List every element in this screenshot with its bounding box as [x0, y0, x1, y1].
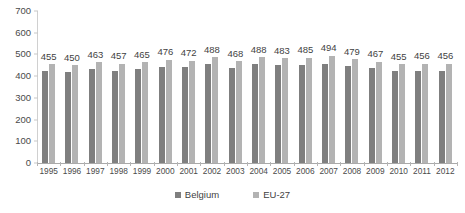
x-axis-category-label: 2005 — [273, 166, 291, 177]
x-axis-tick-mark — [457, 162, 458, 166]
bar-pair — [107, 11, 130, 163]
bar-pair — [200, 11, 223, 163]
plot-area: 0100200300400500600700455450463457465476… — [37, 11, 457, 163]
bar-pair — [364, 11, 387, 163]
bar-value-label: 468 — [227, 49, 243, 59]
x-axis-category-label: 1998 — [109, 166, 127, 177]
bar-pair — [37, 11, 60, 163]
bar-group: 456 — [434, 11, 457, 163]
x-axis-category-label: 2008 — [343, 166, 361, 177]
bar-belgium — [345, 66, 351, 163]
x-axis-category-label: 1995 — [39, 166, 57, 177]
bar-value-label: 488 — [251, 45, 267, 55]
bar-pair — [60, 11, 83, 163]
bar-eu27 — [282, 58, 288, 163]
bar-group: 465 — [130, 11, 153, 163]
legend-label: Belgium — [185, 190, 219, 200]
bar-pair — [84, 11, 107, 163]
x-axis-category-label: 2009 — [366, 166, 384, 177]
x-axis-category-label: 2010 — [389, 166, 407, 177]
bar-group: 457 — [107, 11, 130, 163]
bar-belgium — [229, 68, 235, 163]
bar-pair — [154, 11, 177, 163]
bar-value-label: 483 — [274, 46, 290, 56]
chart-legend: BelgiumEU-27 — [0, 190, 465, 200]
bar-pair — [410, 11, 433, 163]
bar-eu27 — [376, 62, 382, 163]
bar-value-label: 472 — [181, 48, 197, 58]
legend-swatch-icon — [175, 192, 181, 198]
bar-group: 483 — [270, 11, 293, 163]
bar-value-label: 457 — [111, 51, 127, 61]
bar-eu27 — [119, 64, 125, 163]
bar-group: 485 — [294, 11, 317, 163]
bar-pair — [177, 11, 200, 163]
bar-value-label: 456 — [414, 51, 430, 61]
x-axis-category-label: 2000 — [156, 166, 174, 177]
bar-pair — [130, 11, 153, 163]
bar-belgium — [65, 72, 71, 163]
bar-eu27 — [306, 58, 312, 163]
legend-item[interactable]: EU-27 — [253, 190, 290, 200]
bar-group: 467 — [364, 11, 387, 163]
x-axis-category-label: 1997 — [86, 166, 104, 177]
bar-pair — [270, 11, 293, 163]
bar-eu27 — [72, 65, 78, 163]
x-axis-category-label: 2011 — [413, 166, 431, 177]
bar-group: 494 — [317, 11, 340, 163]
bar-eu27 — [142, 62, 148, 163]
bar-value-label: 455 — [41, 52, 57, 62]
bar-value-label: 479 — [344, 47, 360, 57]
bar-group: 456 — [410, 11, 433, 163]
bar-pair — [434, 11, 457, 163]
bar-belgium — [369, 68, 375, 163]
x-axis-category-label: 1996 — [63, 166, 81, 177]
bar-eu27 — [189, 61, 195, 163]
legend-item[interactable]: Belgium — [175, 190, 219, 200]
x-axis-labels: 1995199619971998199920002001200220032004… — [37, 166, 457, 182]
bar-belgium — [112, 71, 118, 163]
bar-belgium — [275, 65, 281, 163]
x-axis-category-label: 2001 — [179, 166, 197, 177]
bar-chart: 0100200300400500600700455450463457465476… — [0, 0, 465, 213]
bar-belgium — [415, 71, 421, 163]
x-axis-category-label: 2012 — [436, 166, 454, 177]
x-axis-category-label: 2007 — [319, 166, 337, 177]
bar-group: 476 — [154, 11, 177, 163]
bar-value-label: 476 — [157, 47, 173, 57]
bar-eu27 — [399, 64, 405, 163]
bar-group: 468 — [224, 11, 247, 163]
bar-value-label: 456 — [437, 51, 453, 61]
legend-swatch-icon — [253, 192, 259, 198]
bar-value-label: 494 — [321, 43, 337, 53]
bar-eu27 — [352, 59, 358, 163]
bar-value-label: 450 — [64, 53, 80, 63]
bar-belgium — [135, 69, 141, 163]
bar-eu27 — [212, 57, 218, 163]
bar-group: 488 — [247, 11, 270, 163]
bar-belgium — [159, 67, 165, 163]
bar-belgium — [439, 71, 445, 163]
bar-eu27 — [446, 64, 452, 163]
bar-value-label: 455 — [391, 52, 407, 62]
x-axis-category-label: 2002 — [203, 166, 221, 177]
bar-eu27 — [259, 57, 265, 163]
bar-belgium — [205, 64, 211, 163]
bar-eu27 — [329, 56, 335, 163]
bar-value-label: 467 — [367, 49, 383, 59]
bar-pair — [387, 11, 410, 163]
x-axis-category-label: 2004 — [249, 166, 267, 177]
x-axis-category-label: 2003 — [226, 166, 244, 177]
x-axis-category-label: 1999 — [133, 166, 151, 177]
legend-label: EU-27 — [263, 190, 290, 200]
bar-pair — [247, 11, 270, 163]
bar-belgium — [299, 65, 305, 163]
bar-pair — [224, 11, 247, 163]
bar-eu27 — [236, 61, 242, 163]
bar-belgium — [322, 64, 328, 163]
bar-value-label: 485 — [297, 45, 313, 55]
bar-belgium — [252, 64, 258, 163]
bar-belgium — [89, 69, 95, 163]
bar-group: 450 — [60, 11, 83, 163]
bar-group: 463 — [84, 11, 107, 163]
